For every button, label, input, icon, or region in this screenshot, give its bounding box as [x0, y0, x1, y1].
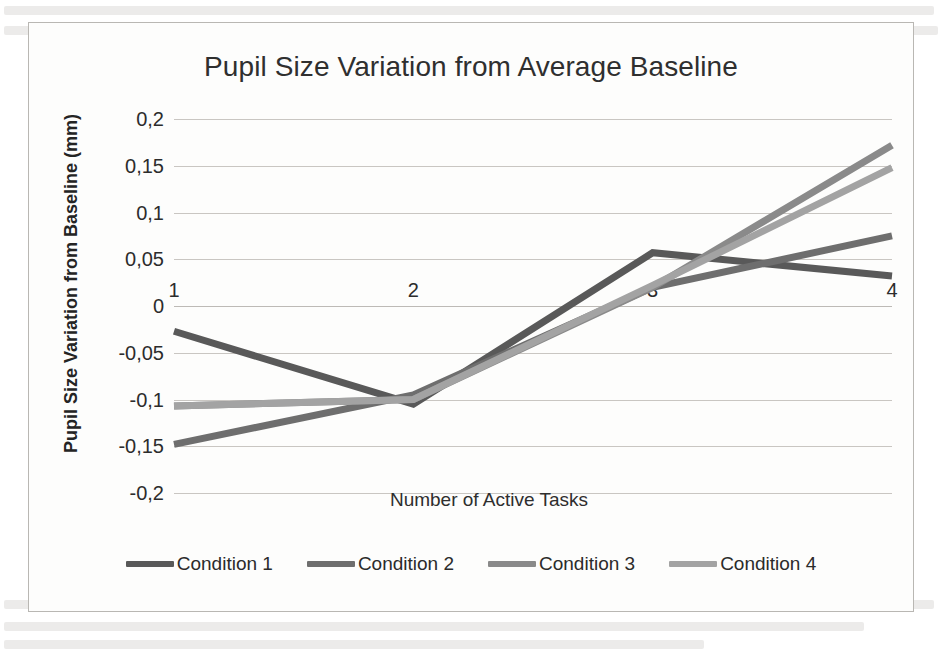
background-text-bleed: [4, 6, 934, 15]
y-tick-label: 0: [153, 295, 164, 318]
series-line: [174, 253, 892, 404]
background-text-bleed: [4, 622, 864, 631]
chart-figure: Pupil Size Variation from Average Baseli…: [28, 22, 914, 612]
legend-swatch-icon: [307, 561, 355, 567]
legend-swatch-icon: [488, 561, 536, 567]
chart-legend: Condition 1Condition 2Condition 3Conditi…: [29, 553, 913, 575]
y-tick-label: 0,1: [136, 201, 164, 224]
y-tick-label: -0,2: [130, 482, 164, 505]
legend-label: Condition 4: [720, 553, 816, 575]
legend-label: Condition 3: [539, 553, 635, 575]
y-tick-label: 0,15: [125, 154, 164, 177]
legend-label: Condition 1: [177, 553, 273, 575]
legend-swatch-icon: [126, 561, 174, 567]
series-lines: [174, 119, 892, 493]
series-line: [174, 168, 892, 406]
y-tick-label: 0,2: [136, 108, 164, 131]
chart-title: Pupil Size Variation from Average Baseli…: [29, 51, 913, 83]
legend-item[interactable]: Condition 4: [669, 553, 816, 575]
x-axis-title: Number of Active Tasks: [279, 489, 699, 511]
legend-item[interactable]: Condition 2: [307, 553, 454, 575]
y-tick-label: 0,05: [125, 248, 164, 271]
legend-item[interactable]: Condition 1: [126, 553, 273, 575]
legend-item[interactable]: Condition 3: [488, 553, 635, 575]
y-axis-title: Pupil Size Variation from Baseline (mm): [61, 94, 82, 474]
legend-label: Condition 2: [358, 553, 454, 575]
plot-area: 0,20,150,10,050-0,05-0,1-0,15-0,2 1234: [174, 119, 892, 493]
background-text-bleed: [4, 640, 704, 649]
legend-swatch-icon: [669, 561, 717, 567]
y-tick-label: -0,15: [118, 435, 164, 458]
y-tick-label: -0,1: [130, 388, 164, 411]
y-tick-label: -0,05: [118, 341, 164, 364]
